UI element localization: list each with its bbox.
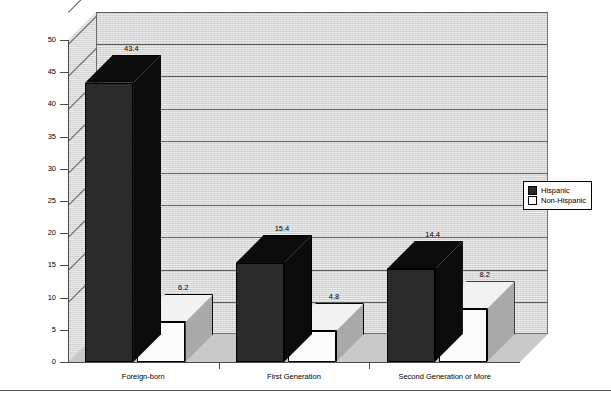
y-axis-tick	[60, 40, 68, 41]
bar-side-face	[133, 55, 161, 362]
y-axis-label: 5	[30, 326, 56, 334]
gridline	[96, 76, 548, 77]
bar-value-label: 15.4	[258, 225, 306, 233]
bar-hispanic	[85, 83, 133, 362]
gridline	[96, 109, 548, 110]
legend-label: Hispanic	[541, 187, 570, 195]
gridline	[96, 12, 548, 13]
y-axis-tick	[60, 169, 68, 170]
y-axis-tick	[60, 298, 68, 299]
bar-value-label: 14.4	[409, 231, 457, 239]
y-axis-tick	[60, 137, 68, 138]
bar-hispanic	[387, 269, 435, 362]
bar-front-face	[85, 83, 133, 362]
y-axis-line	[68, 40, 69, 362]
bar-value-label: 6.2	[159, 284, 207, 292]
y-axis-tick	[60, 265, 68, 266]
y-axis-tick	[60, 362, 68, 363]
legend-item-hispanic: Hispanic	[528, 186, 586, 195]
gridline	[96, 237, 548, 238]
y-axis-label: 45	[30, 68, 56, 76]
bar-front-face	[387, 269, 435, 362]
legend-swatch-icon	[528, 196, 537, 205]
category-label: Foreign-born	[68, 372, 219, 381]
gridline	[96, 44, 548, 45]
y-axis-label: 30	[30, 165, 56, 173]
y-axis-tick	[60, 233, 68, 234]
y-axis-tick	[60, 72, 68, 73]
y-axis-tick	[60, 330, 68, 331]
y-axis-label: 20	[30, 229, 56, 237]
chart-legend: Hispanic Non-Hispanic	[523, 181, 592, 210]
legend-item-non-hispanic: Non-Hispanic	[528, 196, 586, 205]
y-axis-label: 0	[30, 358, 56, 366]
category-label: First Generation	[219, 372, 370, 381]
y-axis-label: 25	[30, 197, 56, 205]
gridline	[96, 205, 548, 206]
chart-canvas: 05101520253035404550 43.46.215.44.814.48…	[0, 0, 611, 403]
y-axis-tick	[60, 104, 68, 105]
bar-front-face	[236, 263, 284, 362]
x-axis-line	[68, 362, 520, 363]
bar-hispanic	[236, 263, 284, 362]
gridline	[96, 141, 548, 142]
category-tick	[369, 362, 370, 369]
category-label: Second Generation or More	[369, 372, 520, 381]
y-axis-label: 40	[30, 100, 56, 108]
y-axis-label: 10	[30, 294, 56, 302]
y-axis-label: 15	[30, 261, 56, 269]
category-tick	[219, 362, 220, 369]
y-axis-label: 35	[30, 133, 56, 141]
legend-label: Non-Hispanic	[541, 197, 586, 205]
gridline	[96, 173, 548, 174]
bar-value-label: 8.2	[461, 271, 509, 279]
bar-value-label: 4.8	[310, 293, 358, 301]
bar-value-label: 43.4	[107, 45, 155, 53]
y-axis-label: 50	[30, 36, 56, 44]
legend-swatch-icon	[528, 186, 537, 195]
footer-divider	[0, 390, 611, 391]
y-axis-tick	[60, 201, 68, 202]
